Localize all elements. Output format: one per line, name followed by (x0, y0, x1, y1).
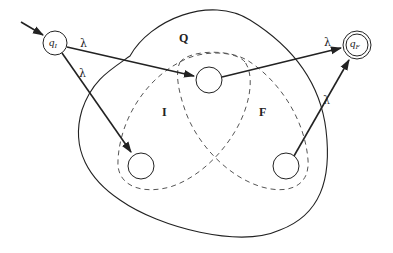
state-q-final[interactable]: qF (343, 31, 371, 59)
set-i-label: I (162, 105, 167, 119)
set-f-label: F (259, 105, 266, 119)
lambda-label-qi-middle: λ (80, 37, 87, 50)
set-q-boundary (78, 10, 327, 237)
lambda-label-right-qf: λ (323, 94, 330, 107)
lambda-label-middle-qf: λ (324, 36, 331, 49)
automaton-diagram: Q I F qI qF λ λ λ λ (0, 0, 393, 253)
lambda-label-qi-left: λ (79, 67, 86, 80)
state-left[interactable] (128, 153, 154, 179)
transition-qi-to-left (62, 53, 131, 152)
transition-qi-to-middle (67, 47, 194, 76)
state-middle[interactable] (196, 67, 222, 93)
set-q-label: Q (179, 31, 188, 45)
start-arrow (21, 22, 43, 35)
state-right[interactable] (273, 153, 299, 179)
transition-right-to-qf (294, 60, 349, 156)
state-q-initial[interactable]: qI (43, 31, 67, 55)
transition-middle-to-qf (222, 48, 341, 77)
